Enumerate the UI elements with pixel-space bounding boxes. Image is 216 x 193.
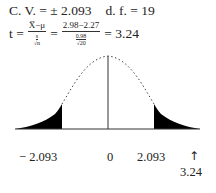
left-critical-value-label: − 2.093 [19,150,57,165]
test-statistic-label: 3.24 [180,165,202,180]
right-rejection-region [154,104,200,129]
center-label: 0 [107,150,113,165]
right-critical-value-label: 2.093 [137,150,165,165]
left-rejection-region [15,104,62,129]
up-arrow-icon: ↑ [189,149,199,163]
